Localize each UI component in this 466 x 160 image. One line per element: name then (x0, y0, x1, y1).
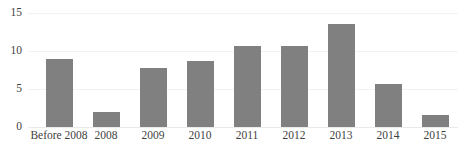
x-tick-label-before-2008: Before 2008 (30, 130, 87, 142)
y-tick-label: 10 (11, 45, 23, 57)
bar-2013[interactable] (328, 24, 355, 127)
bar-2014[interactable] (375, 84, 402, 127)
bar-2011[interactable] (234, 46, 261, 127)
bar-chart: 15 10 5 0 Before 2008 2008 2009 2010 201… (0, 0, 466, 160)
x-tick-label-2011: 2011 (236, 130, 259, 142)
bar-2009[interactable] (140, 68, 167, 127)
y-tick-label: 5 (16, 83, 22, 95)
bars-layer (28, 13, 458, 127)
y-tick-label: 15 (11, 7, 23, 19)
bar-2015[interactable] (422, 115, 449, 127)
x-tick-label-2014: 2014 (377, 130, 400, 142)
bar-2010[interactable] (187, 61, 214, 127)
bar-2012[interactable] (281, 46, 308, 127)
bar-2008[interactable] (93, 112, 120, 127)
x-tick-label-2012: 2012 (283, 130, 306, 142)
y-axis: 15 10 5 0 (0, 0, 28, 140)
x-tick-label-2013: 2013 (330, 130, 353, 142)
gridline-0-baseline (28, 127, 458, 128)
x-tick-label-2015: 2015 (424, 130, 447, 142)
x-axis: Before 2008 2008 2009 2010 2011 2012 201… (28, 130, 458, 152)
y-tick-label: 0 (16, 121, 22, 133)
x-tick-label-2009: 2009 (142, 130, 165, 142)
bar-before-2008[interactable] (46, 59, 73, 127)
x-tick-label-2010: 2010 (189, 130, 212, 142)
x-tick-label-2008: 2008 (95, 130, 118, 142)
